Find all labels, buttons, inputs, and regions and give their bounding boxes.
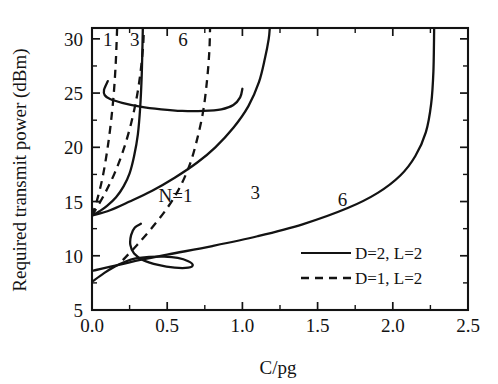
legend-label: D=2, L=2 xyxy=(355,244,422,263)
x-axis-title: C/pg xyxy=(260,357,297,378)
curve-label: 6 xyxy=(178,29,188,50)
curve-label: 3 xyxy=(250,182,260,203)
y-tick-labels: 51015202530 xyxy=(64,29,83,321)
x-tick-label: 2.0 xyxy=(381,315,405,336)
plot-frame xyxy=(92,28,468,310)
x-tick-label: 0.0 xyxy=(80,315,104,336)
data-curve xyxy=(92,28,117,216)
y-tick-label: 20 xyxy=(64,137,83,158)
x-tick-label: 1.0 xyxy=(231,315,255,336)
legend-label: D=1, L=2 xyxy=(355,269,422,288)
x-tick-label: 1.5 xyxy=(306,315,330,336)
chart-figure: 0.00.51.01.52.02.5 51015202530 136N=136 … xyxy=(0,0,498,384)
y-tick-label: 5 xyxy=(74,300,84,321)
chart-canvas: 0.00.51.01.52.02.5 51015202530 136N=136 … xyxy=(0,0,498,384)
data-curve xyxy=(104,81,243,111)
x-tick-label: 0.5 xyxy=(155,315,179,336)
y-axis-title: Required transmit power (dBm) xyxy=(9,48,31,291)
y-tick-label: 30 xyxy=(64,29,83,50)
chart-legend: D=2, L=2D=1, L=2 xyxy=(301,244,422,288)
y-tick-label: 15 xyxy=(64,192,83,213)
axis-ticks xyxy=(92,28,468,310)
curve-label: 3 xyxy=(130,29,140,50)
y-tick-label: 25 xyxy=(64,83,83,104)
x-tick-labels: 0.00.51.01.52.02.5 xyxy=(80,315,480,336)
y-tick-label: 10 xyxy=(64,246,83,267)
x-tick-label: 2.5 xyxy=(456,315,480,336)
curve-label: 6 xyxy=(338,189,348,210)
curve-label: N=1 xyxy=(159,185,193,206)
curve-label: 1 xyxy=(103,29,113,50)
